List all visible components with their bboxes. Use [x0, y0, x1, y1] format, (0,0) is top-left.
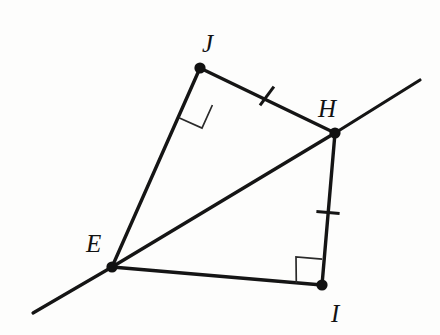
vertex-dot-E: [106, 261, 117, 272]
segment-E-J: [112, 68, 200, 267]
segment-I-E: [112, 267, 322, 285]
diagram-canvas: E J H I: [0, 0, 440, 335]
vertex-dot-H: [329, 127, 340, 138]
diagonal-E-H: [112, 133, 335, 267]
congruence-tick-on-HI: [316, 211, 339, 213]
segment-H-I: [322, 133, 335, 285]
segment-J-H: [200, 68, 335, 133]
vertex-label-E: E: [85, 230, 101, 257]
geometry-figure: E J H I: [0, 0, 440, 335]
vertex-label-I: I: [330, 300, 341, 327]
vertex-label-J: J: [202, 30, 215, 57]
ray-through-E-extended: [33, 267, 112, 313]
right-angle-at-I: [296, 257, 322, 283]
vertex-label-H: H: [317, 95, 338, 122]
vertex-dot-I: [316, 279, 327, 290]
ray-through-H-extended: [335, 80, 420, 133]
vertex-dot-J: [194, 62, 205, 73]
